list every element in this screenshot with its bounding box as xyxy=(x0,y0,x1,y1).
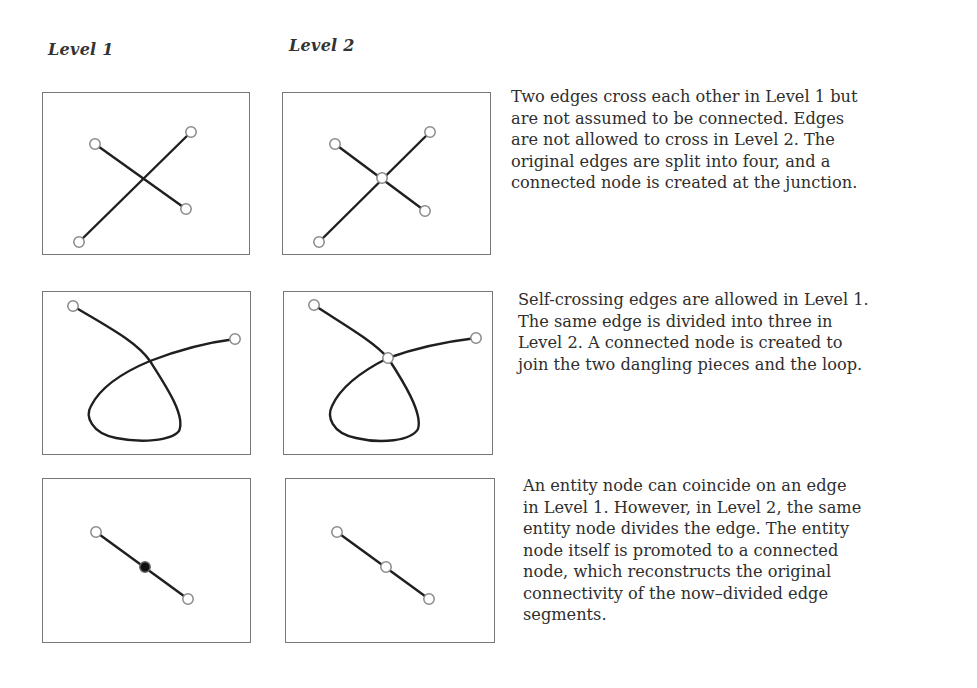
entity-node-level-2-diagram xyxy=(286,479,496,644)
panel-entity-node-level-1 xyxy=(42,478,251,643)
crossing-edges-level-2-diagram xyxy=(283,93,492,256)
panel-self-crossing-level-1 xyxy=(42,291,251,455)
heading-level-1: Level 1 xyxy=(48,40,114,59)
panel-crossing-level-2 xyxy=(282,92,491,255)
crossing-edges-level-1-diagram xyxy=(43,93,251,256)
self-crossing-level-1-diagram xyxy=(43,292,252,456)
entity-node-level-1-diagram xyxy=(43,479,252,644)
panel-self-crossing-level-2 xyxy=(283,291,493,455)
panel-crossing-level-1 xyxy=(42,92,250,255)
description-self-crossing-edge: Self-crossing edges are allowed in Level… xyxy=(518,289,973,375)
description-entity-node-on-edge: An entity node can coincide on an edge i… xyxy=(523,475,973,626)
heading-level-2: Level 2 xyxy=(289,36,355,55)
self-crossing-level-2-diagram xyxy=(284,292,494,456)
panel-entity-node-level-2 xyxy=(285,478,495,643)
description-crossing-edges: Two edges cross each other in Level 1 bu… xyxy=(511,86,971,194)
